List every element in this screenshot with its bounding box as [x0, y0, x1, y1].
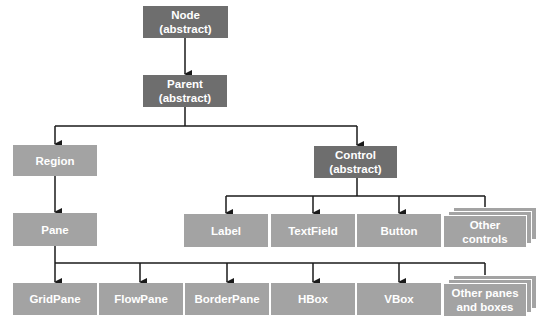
gridpane-label: GridPane — [29, 292, 80, 306]
other-panes-line2: and boxes — [457, 301, 514, 313]
other-controls-line1: Other — [470, 219, 501, 231]
node-gridpane: GridPane — [13, 283, 97, 315]
node-button: Button — [357, 214, 441, 247]
flowpane-label: FlowPane — [114, 292, 168, 306]
parent-label: Parent — [167, 78, 203, 90]
node-textfield: TextField — [271, 214, 355, 247]
other-controls-line2: controls — [462, 233, 507, 245]
label-control-label: Label — [211, 224, 241, 238]
node-pane: Pane — [13, 213, 97, 246]
borderpane-label: BorderPane — [194, 292, 259, 306]
hbox-label: HBox — [298, 292, 328, 306]
node-label-control: Label — [184, 214, 268, 247]
node-hbox: HBox — [271, 283, 355, 315]
parent-abstract-tag: (abstract) — [159, 92, 211, 104]
control-abstract-tag: (abstract) — [329, 163, 381, 175]
node-region: Region — [13, 145, 97, 176]
node-control-abstract: Control (abstract) — [314, 146, 397, 178]
node-vbox: VBox — [357, 283, 441, 315]
node-node-abstract: Node (abstract) — [143, 6, 228, 38]
node-other-controls: Other controls — [443, 215, 527, 248]
pane-label: Pane — [41, 223, 69, 237]
node-parent-abstract: Parent (abstract) — [143, 75, 227, 107]
node-flowpane: FlowPane — [99, 283, 183, 315]
control-label: Control — [335, 149, 376, 161]
node-borderpane: BorderPane — [185, 283, 269, 315]
other-panes-line1: Other panes — [451, 287, 518, 299]
textfield-label: TextField — [288, 224, 338, 238]
vbox-label: VBox — [384, 292, 413, 306]
node-other-panes-and-boxes: Other panes and boxes — [443, 283, 527, 317]
button-label: Button — [380, 224, 417, 238]
region-label: Region — [36, 154, 75, 168]
node-label: Node — [171, 9, 200, 21]
node-abstract-tag: (abstract) — [159, 23, 211, 35]
